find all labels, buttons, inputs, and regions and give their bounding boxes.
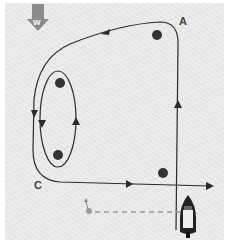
- arrow-top-left: [101, 29, 110, 35]
- arrow-bottom-end: [206, 182, 214, 190]
- buoy-mark-bottom-right: [158, 168, 168, 178]
- buoy-mark-lower-left: [53, 150, 63, 160]
- motorboat-icon: [180, 195, 196, 238]
- person-in-water-icon: [84, 198, 92, 214]
- buoy-mark-upper-left: [55, 78, 65, 88]
- arrow-bottom-mid: [126, 180, 133, 188]
- arrow-inner-right-up: [72, 117, 80, 125]
- buoy-mark-top-right: [152, 30, 162, 40]
- label-c: C: [34, 179, 42, 191]
- label-a: A: [179, 15, 187, 27]
- wind-label: W: [33, 18, 41, 27]
- maneuver-diagram: A C W: [0, 0, 229, 244]
- arrow-left-down: [31, 110, 38, 118]
- arrow-inner-left-down: [38, 120, 46, 128]
- course-paths: [0, 0, 229, 244]
- outer-course-path: [33, 22, 210, 230]
- arrow-right-vertical-up: [174, 100, 182, 108]
